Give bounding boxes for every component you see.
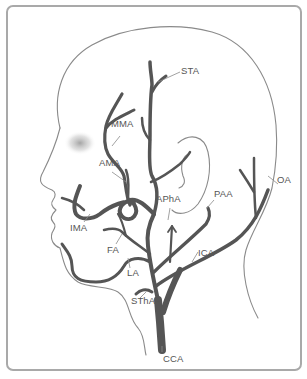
leader-paa <box>207 200 214 208</box>
label-cca: CCA <box>163 354 183 364</box>
leader-apha <box>168 208 170 220</box>
leader-mma <box>112 136 120 146</box>
vessel-ima <box>74 186 154 219</box>
label-oa: OA <box>277 175 291 185</box>
vessel-stha <box>136 290 152 294</box>
label-paa: PAA <box>214 189 233 199</box>
head-artery-diagram <box>0 0 307 379</box>
vessel-mma <box>105 94 130 205</box>
label-apha: APhA <box>156 194 181 204</box>
vessel-oa-branch1 <box>254 158 256 218</box>
label-ima: IMA <box>70 223 87 233</box>
label-la: LA <box>127 268 139 278</box>
label-mma: MMA <box>111 119 133 129</box>
vessel-sta-frontal <box>152 76 166 92</box>
face-profile <box>40 128 146 355</box>
leader-fa <box>116 234 122 244</box>
label-ica: ICA <box>198 248 214 258</box>
vessel-oa-branch2 <box>240 170 254 192</box>
leader-sta <box>158 72 180 82</box>
label-fa: FA <box>107 245 119 255</box>
cheek-shadow <box>64 131 96 155</box>
vessel-paa <box>154 208 209 272</box>
label-stha: SThA <box>131 296 155 306</box>
label-sta: STA <box>181 66 199 76</box>
label-ama: AMA <box>99 158 120 168</box>
